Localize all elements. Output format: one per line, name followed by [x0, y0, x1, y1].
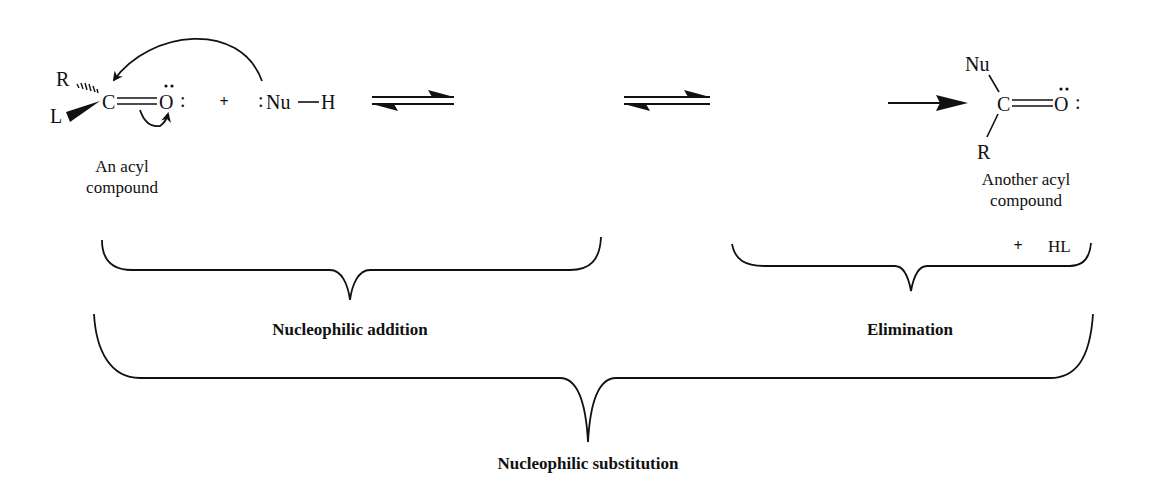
equilibrium-arrow-1-icon: [372, 90, 454, 111]
product-atom-o: O: [1054, 93, 1068, 115]
atom-l: L: [50, 105, 62, 127]
atom-r: R: [56, 68, 70, 90]
acyl-compound: R L C O : An acyl compound: [50, 68, 186, 197]
product-caption-line2: compound: [990, 191, 1062, 210]
product-atom-nu: Nu: [965, 53, 989, 75]
product-atom-r: R: [977, 141, 991, 163]
brace-elimination: [732, 243, 1091, 291]
atom-h: H: [321, 91, 335, 113]
reaction-diagram: R L C O : An acyl compound + : Nu: [0, 0, 1150, 499]
label-nucleophilic-addition: Nucleophilic addition: [272, 320, 428, 339]
equilibrium-arrow-2-icon: [624, 90, 710, 111]
nucleophile: : Nu H: [258, 89, 335, 113]
hashed-wedge-bond: [77, 83, 98, 93]
byproduct-plus: +: [1013, 237, 1022, 254]
acyl-caption-line1: An acyl: [95, 157, 149, 176]
nu-c-bond: [989, 75, 999, 92]
curved-arrow-nucleophilic-attack-icon: [114, 39, 262, 81]
product-atom-c: C: [997, 93, 1010, 115]
nucleophile-lone-pair: :: [258, 89, 264, 111]
lone-pair-o: :: [180, 89, 186, 111]
atom-nu: Nu: [266, 91, 290, 113]
product-lone-pair-o: :: [1075, 91, 1081, 113]
label-elimination: Elimination: [867, 320, 954, 339]
forward-arrow-icon: [888, 95, 968, 111]
byproduct-hl: HL: [1048, 237, 1071, 256]
solid-wedge-bond: [66, 101, 100, 122]
brace-nucleophilic-addition: [102, 237, 601, 300]
product-caption-line1: Another acyl: [982, 170, 1071, 189]
atom-o: O: [159, 91, 173, 113]
acyl-caption-line2: compound: [86, 178, 158, 197]
label-nucleophilic-substitution: Nucleophilic substitution: [498, 454, 679, 473]
atom-c: C: [102, 91, 115, 113]
r-c-bond: [987, 114, 998, 137]
product-acyl-compound: Nu C O : R Another acyl compound + HL: [965, 53, 1081, 256]
plus-sign: +: [219, 93, 228, 110]
